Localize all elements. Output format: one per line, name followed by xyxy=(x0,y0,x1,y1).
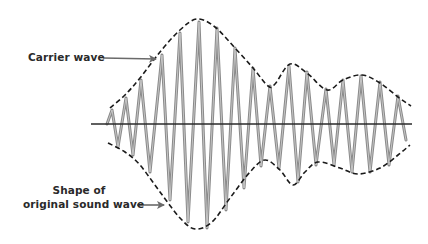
sound-wave-shape-label-line1: Shape of xyxy=(23,183,135,197)
carrier-wave-arrow-icon xyxy=(103,58,156,59)
carrier-wave-label: Carrier wave xyxy=(28,50,105,64)
carrier-wave xyxy=(107,22,406,228)
sound-wave-shape-label: Shape of original sound wave xyxy=(23,183,135,211)
upper-envelope-dashed xyxy=(110,19,411,108)
sound-wave-shape-label-line2: original sound wave xyxy=(23,197,135,211)
